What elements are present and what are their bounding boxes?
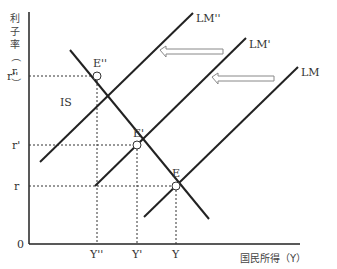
y-double-prime-tick: Y''	[89, 248, 103, 261]
lm-curve	[144, 67, 298, 217]
lm-prime-curve	[95, 38, 246, 186]
equilibrium-e-prime	[133, 141, 141, 149]
lm-label: LM	[301, 66, 320, 79]
y-prime-tick: Y'	[131, 248, 142, 261]
is-lm-diagram: 利 子 率 （ r ） 国民所得（Y） 0 IS LM LM' LM'' E''…	[0, 0, 337, 269]
e-prime-label: E'	[133, 127, 144, 140]
origin-label: 0	[17, 238, 24, 251]
is-label: IS	[60, 96, 72, 109]
x-axis-label: 国民所得（Y）	[240, 253, 306, 264]
svg-text:子: 子	[10, 26, 20, 37]
lm-prime-label: LM'	[249, 38, 271, 51]
svg-text:利: 利	[10, 13, 20, 24]
r-tick: r	[14, 180, 20, 193]
y-tick: Y	[171, 248, 180, 261]
e-label: E	[172, 167, 180, 180]
r-prime-tick: r'	[12, 139, 20, 152]
shift-arrow-lm-to-lm-prime	[212, 73, 274, 84]
equilibrium-e-double-prime	[93, 72, 101, 80]
shift-arrow-lm-prime-to-lm-double-prime	[160, 46, 223, 57]
e-double-prime-label: E''	[93, 57, 107, 70]
lm-double-prime-curve	[40, 13, 193, 162]
lm-double-prime-label: LM''	[196, 12, 221, 25]
equilibrium-e	[172, 182, 180, 190]
r-double-prime-tick: r''	[7, 70, 18, 83]
svg-text:（: （	[10, 52, 21, 62]
svg-text:率: 率	[10, 38, 20, 50]
